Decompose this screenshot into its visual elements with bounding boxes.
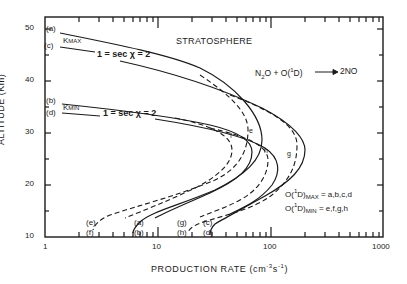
- y-tick-30: 30: [25, 128, 34, 136]
- label-c-left: (c): [44, 42, 53, 50]
- y-tick-20: 20: [25, 180, 34, 188]
- label-e-bottom: (e): [86, 219, 96, 227]
- label-b-bottom: (b): [134, 229, 144, 237]
- x-tick-1000: 1000: [372, 243, 390, 251]
- label-g-inner: g: [287, 150, 291, 157]
- label-f-bottom: (f): [86, 229, 94, 237]
- y-tick-10: 10: [25, 232, 34, 240]
- o1d-max-legend: O(1D)MAX = a,b,c,d: [285, 188, 352, 200]
- y-tick-40: 40: [25, 76, 34, 84]
- label-f-inner: f: [230, 132, 232, 139]
- label-c-bottom: (c): [203, 219, 212, 227]
- reaction-product: 2NO: [340, 67, 357, 76]
- curve-g: [188, 95, 297, 232]
- label-g-bottom: (g): [177, 219, 187, 227]
- y-ticks: [45, 29, 383, 211]
- label-a-bottom: (a): [134, 219, 144, 227]
- label-b-left: (b): [46, 97, 56, 105]
- curve-d: [62, 113, 278, 214]
- y-tick-50: 50: [25, 24, 34, 32]
- kmax-label: KMAX: [63, 37, 81, 45]
- label-a-left: (a): [46, 25, 56, 33]
- label-h-bottom: (h): [177, 229, 187, 237]
- label-h-inner: h: [264, 147, 268, 154]
- x-axis-label: PRODUCTION RATE (cm-3s-1): [151, 263, 288, 274]
- sec-chi-label-min: 1 = sec χ = 2: [103, 109, 156, 118]
- reaction-arrow: [315, 70, 338, 75]
- kmin-label: KMIN: [63, 104, 79, 112]
- curve-f: [125, 118, 232, 218]
- label-d-bottom: (d): [203, 229, 213, 237]
- label-e-inner: e: [249, 127, 253, 134]
- label-d-left: (d): [46, 109, 56, 117]
- sec-chi-label-max: 1 = sec χ = 2: [97, 50, 150, 59]
- chart-title: STRATOSPHERE: [176, 37, 252, 46]
- reaction-label: N2O + O(1D): [255, 67, 303, 80]
- x-tick-1: 1: [43, 243, 47, 251]
- y-axis-label: ALTITUDE (Km): [0, 74, 6, 145]
- x-tick-10: 10: [152, 243, 161, 251]
- x-tick-100: 100: [263, 243, 276, 251]
- o1d-min-legend: O(1D)MIN = e,f,g,h: [285, 202, 348, 214]
